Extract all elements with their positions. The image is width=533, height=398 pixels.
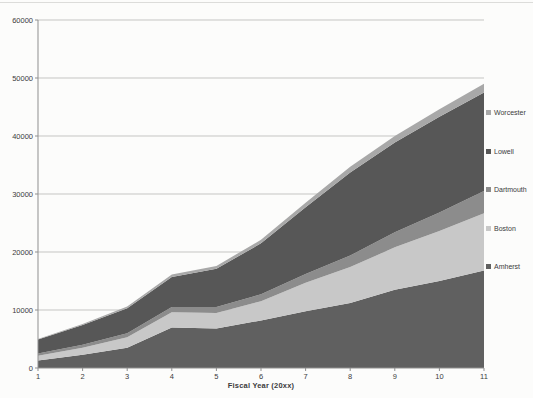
stacked-area-chart: 0100002000030000400005000060000123456789… [0,0,533,398]
legend-item-boston: Boston [486,225,516,232]
x-tick-label: 7 [304,372,308,381]
x-tick-label: 3 [125,372,129,381]
legend-swatch-icon [486,110,491,115]
x-tick-label: 9 [393,372,397,381]
y-tick-label: 10000 [12,306,33,315]
legend-swatch-icon [486,149,491,154]
x-tick-label: 2 [81,372,85,381]
chart-legend: WorcesterLowellDartmouthBostonAmherst [486,0,533,398]
chart-canvas: 0100002000030000400005000060000123456789… [0,0,533,398]
legend-item-worcester: Worcester [486,109,526,116]
x-axis-title: Fiscal Year (20xx) [38,381,484,390]
y-tick-label: 50000 [12,74,33,83]
legend-label: Lowell [494,148,514,155]
legend-swatch-icon [486,187,491,192]
x-tick-label: 8 [348,372,352,381]
legend-item-lowell: Lowell [486,148,514,155]
legend-item-amherst: Amherst [486,263,520,270]
legend-label: Boston [494,225,516,232]
legend-label: Dartmouth [494,186,527,193]
x-tick-label: 6 [259,372,263,381]
legend-label: Amherst [494,263,520,270]
x-tick-label: 1 [36,372,40,381]
legend-swatch-icon [486,264,491,269]
y-tick-label: 0 [29,364,33,373]
x-tick-label: 10 [435,372,443,381]
y-tick-label: 30000 [12,190,33,199]
y-tick-label: 40000 [12,132,33,141]
x-tick-label: 4 [170,372,174,381]
legend-item-dartmouth: Dartmouth [486,186,527,193]
y-tick-label: 60000 [12,16,33,25]
y-tick-label: 20000 [12,248,33,257]
legend-swatch-icon [486,226,491,231]
x-tick-label: 5 [214,372,218,381]
legend-label: Worcester [494,109,526,116]
